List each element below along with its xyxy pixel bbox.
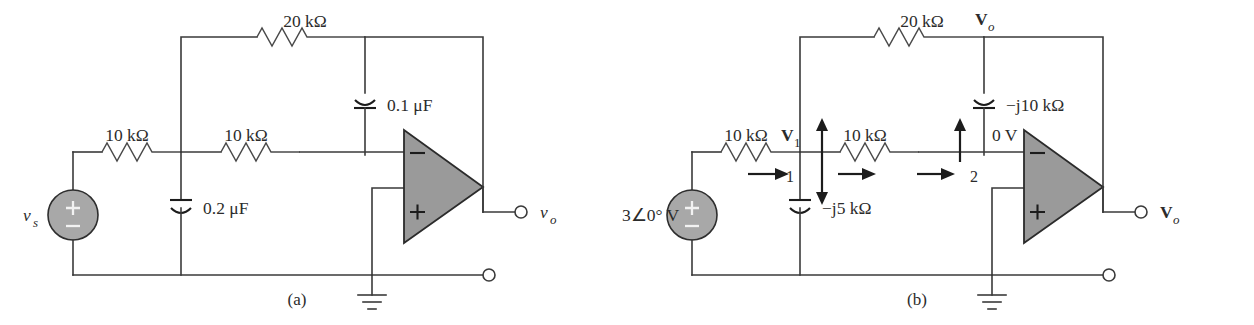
opamp-a xyxy=(404,130,483,243)
label-b-output-node-symbol: V xyxy=(975,9,988,29)
label-b-output-subscript: o xyxy=(1173,212,1180,227)
label-b-source: 3∠0° V xyxy=(622,205,680,225)
cap-b-feedback-plate-top xyxy=(974,100,994,105)
label-a-output-subscript: o xyxy=(550,212,557,227)
label-a-output-symbol: v xyxy=(540,202,548,222)
label-a-source-subscript: s xyxy=(33,215,38,230)
wire-b-noninv-to-ground xyxy=(992,188,1024,275)
label-a-source-symbol: v xyxy=(23,205,31,225)
current-arrow-b-cap-fb-up xyxy=(954,118,966,162)
panel-a: 20 kΩ 10 kΩ 10 kΩ 0.1 μF 0.2 μF v s v o … xyxy=(23,11,557,309)
caption-b: (b) xyxy=(907,290,927,309)
label-a-shunt-capacitor: 0.2 μF xyxy=(203,198,249,218)
label-b-node2-number: 2 xyxy=(970,168,978,185)
label-a-output: v o xyxy=(540,202,557,227)
current-arrow-b-node1-up xyxy=(816,118,828,167)
label-b-node1-symbol: V xyxy=(781,125,794,145)
label-b-output-node: V o xyxy=(975,9,995,34)
resistor-a-series-symbol xyxy=(221,143,300,161)
cap-a-feedback-plate-top xyxy=(355,100,375,105)
label-b-node1-number: 1 xyxy=(786,168,794,185)
label-b-shunt-capacitor: −j5 kΩ xyxy=(822,198,872,218)
label-b-series-resistor: 10 kΩ xyxy=(843,125,887,145)
resistor-b-input-symbol xyxy=(721,143,800,161)
circuit-diagram-svg: 20 kΩ 10 kΩ 10 kΩ 0.1 μF 0.2 μF v s v o … xyxy=(0,0,1254,325)
label-b-feedback-capacitor: −j10 kΩ xyxy=(1006,95,1064,115)
wire-a-noninv-to-ground xyxy=(372,188,404,275)
label-b-feedback-resistor: 20 kΩ xyxy=(900,11,944,31)
label-a-feedback-resistor: 20 kΩ xyxy=(283,11,327,31)
output-terminal-a-top[interactable] xyxy=(515,206,527,218)
opamp-b xyxy=(1024,130,1103,243)
output-terminal-a-bottom[interactable] xyxy=(483,269,495,281)
current-arrow-b-to-node2 xyxy=(917,168,955,180)
caption-a: (a) xyxy=(288,290,307,309)
resistor-a-input-symbol xyxy=(102,143,181,161)
panel-b: 20 kΩ 10 kΩ 10 kΩ −j10 kΩ −j5 kΩ V o V 1… xyxy=(622,9,1180,309)
label-b-output-symbol: V xyxy=(1160,202,1173,222)
output-terminal-b-top[interactable] xyxy=(1135,206,1147,218)
label-a-input-resistor: 10 kΩ xyxy=(105,125,149,145)
resistor-b-series-symbol xyxy=(840,143,919,161)
label-b-node1-subscript: 1 xyxy=(794,135,801,150)
figure-container: 20 kΩ 10 kΩ 10 kΩ 0.1 μF 0.2 μF v s v o … xyxy=(0,0,1254,325)
label-a-source: v s xyxy=(23,205,38,230)
current-arrow-b-series xyxy=(838,168,876,180)
current-arrow-b-input xyxy=(748,168,789,180)
label-b-input-resistor: 10 kΩ xyxy=(724,125,768,145)
label-b-output: V o xyxy=(1160,202,1180,227)
output-terminal-b-bottom[interactable] xyxy=(1103,269,1115,281)
label-a-feedback-capacitor: 0.1 μF xyxy=(387,95,433,115)
label-b-node1-voltage: V 1 xyxy=(781,125,801,150)
label-a-series-resistor: 10 kΩ xyxy=(224,125,268,145)
label-b-node2-voltage: 0 V xyxy=(992,125,1018,145)
label-b-output-node-subscript: o xyxy=(988,19,995,34)
